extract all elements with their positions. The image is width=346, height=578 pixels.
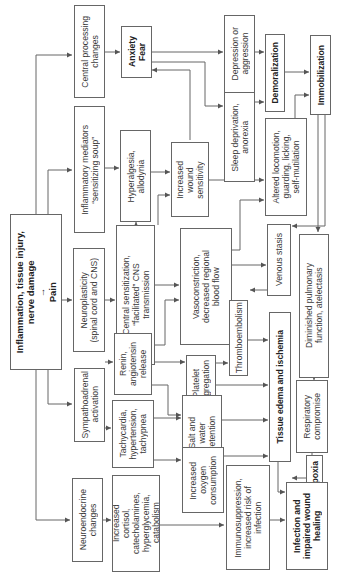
node-label: Immobilization [316, 45, 326, 105]
node-venous-stasis: Venous stasis [267, 224, 291, 296]
node-neuroendocrine-changes: Neuroendocrine changes [72, 478, 103, 562]
node-renin-angiotensin-release: Renin, angiotensin release [114, 333, 152, 395]
node-label: Renin, angiotensin release [118, 342, 148, 386]
node-label: Anxiety Fear [127, 36, 147, 67]
node-central-processing-changes: Central processing changes [74, 5, 105, 98]
node-label: Salt and water retention [187, 416, 217, 449]
node-diminished-pulmonary-function: Diminished pulmonary function, atelectas… [299, 234, 329, 378]
node-thromboembolism: Thromboembolism [229, 300, 248, 376]
node-tissue-edema-ischemia: Tissue edema and ischemia [269, 312, 291, 462]
node-label: Venous stasis [274, 233, 284, 286]
node-label: Infection and impaired wound healing [292, 493, 322, 559]
node-depression-aggression: Depression or aggression [224, 15, 255, 93]
node-label: Sleep deprivation, anorexia [230, 103, 250, 172]
pain-consequences-flow-diagram: Central processing changes Anxiety Fear … [0, 0, 346, 578]
node-label: Tissue edema and ischemia [275, 330, 285, 444]
node-label: Increased cortisol, catecholamines, hype… [112, 492, 160, 554]
node-label: Inflammatory mediators “sensitizing soup… [80, 125, 100, 215]
node-label: Respiratory compromise [302, 393, 322, 440]
node-label: Increased oxygen consumption [188, 456, 218, 505]
node-increased-oxygen-consumption: Increased oxygen consumption [182, 447, 224, 513]
node-label: Increased wound sensitivity [175, 161, 205, 199]
node-label: Hyperalgesia, allodynia [126, 150, 146, 203]
node-label: Central sensitization, “facilitated” CNS… [121, 255, 151, 335]
node-vasoconstriction: Vasoconstriction, decreased regional blo… [180, 228, 232, 345]
node-sympathoadrenal-activation: Sympathoadrenal activation [74, 368, 105, 442]
node-root-inflammation-pain: Inflammation, tissue injury, nerve damag… [10, 214, 62, 370]
node-anxiety-fear: Anxiety Fear [121, 26, 152, 78]
node-neuroplasticity: Neuroplasticity (spinal cord and CNS) [73, 248, 105, 352]
node-label: Inflammation, tissue injury, nerve damag… [14, 231, 58, 353]
node-label: Neuroendocrine changes [78, 489, 98, 550]
node-infection-impaired-healing: Infection and impaired wound healing [286, 482, 328, 570]
node-hyperalgesia-allodynia: Hyperalgesia, allodynia [120, 130, 151, 222]
node-immobilization: Immobilization [310, 35, 331, 115]
node-demoralization: Demoralization [265, 34, 285, 112]
node-label: Altered locomotion, guarding, licking, s… [271, 130, 301, 204]
node-label: Neuroplasticity (spinal cord and CNS) [79, 258, 99, 343]
node-label: Demoralization [270, 42, 280, 104]
node-label: Vasoconstriction, decreased regional blo… [191, 250, 221, 323]
node-altered-locomotion: Altered locomotion, guarding, licking, s… [265, 118, 307, 216]
node-tachycardia-hypertension: Tachycardia, hypertension, tachypnea [112, 400, 154, 468]
node-label: Central processing changes [80, 16, 100, 88]
node-label: Thromboembolism [234, 302, 244, 373]
node-increased-cortisol: Increased cortisol, catecholamines, hype… [112, 475, 160, 572]
node-inflammatory-mediators: Inflammatory mediators “sensitizing soup… [74, 106, 105, 233]
node-immunosuppression: Immunosuppression, increased risk of inf… [226, 465, 270, 570]
node-label: Sympathoadrenal activation [80, 371, 100, 438]
node-label: Diminished pulmonary function, atelectas… [304, 263, 324, 348]
node-label: Tachycardia, hypertension, tachypnea [118, 408, 148, 460]
node-sleep-deprivation-anorexia: Sleep deprivation, anorexia [224, 92, 255, 182]
node-respiratory-compromise: Respiratory compromise [296, 380, 328, 453]
node-label: Immunosuppression, increased risk of inf… [233, 478, 263, 558]
node-increased-wound-sensitivity: Increased wound sensitivity [171, 142, 209, 217]
node-label: Depression or aggression [230, 27, 250, 81]
